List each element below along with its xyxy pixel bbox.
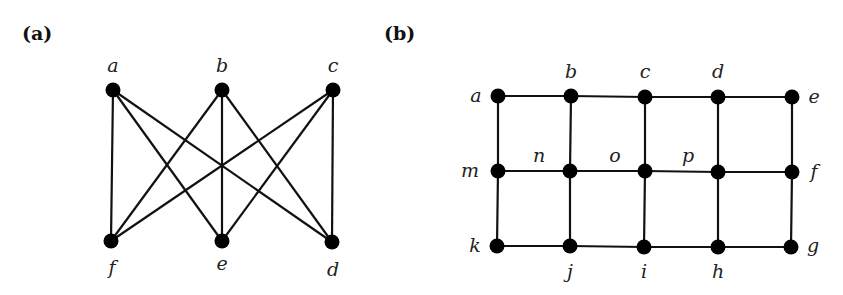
vertex-label-d: d (712, 60, 724, 82)
vertex-label-h: h (712, 260, 724, 282)
edge-c-d (332, 90, 333, 242)
panel-a-graph: (a) abcfed (22, 22, 341, 280)
vertex-b (564, 89, 579, 104)
vertex-label-c: c (328, 54, 339, 76)
vertex-label-f: f (808, 160, 820, 182)
vertex-d (325, 235, 340, 250)
vertex-label-b: b (216, 54, 228, 76)
vertex-nn (563, 164, 578, 179)
edge-b-c (571, 96, 645, 97)
panel-a-edges (111, 90, 333, 242)
vertex-label-d: d (327, 258, 339, 280)
vertex-b (215, 83, 230, 98)
vertex-label-a: a (470, 84, 481, 106)
vertex-c (326, 83, 341, 98)
vertex-d (711, 90, 726, 105)
figure-canvas: (a) abcfed (b) abcdemfkjihgnop (0, 0, 843, 295)
panel-b-label: (b) (384, 22, 415, 44)
vertex-k (490, 239, 505, 254)
vertex-label-o: o (609, 144, 620, 166)
edge-oo-pp (645, 171, 718, 172)
edge-oo-i (644, 171, 645, 247)
edge-a-f (111, 90, 113, 241)
vertex-label-b: b (565, 60, 577, 82)
vertex-e (785, 90, 800, 105)
vertex-f (785, 165, 800, 180)
vertex-i (637, 240, 652, 255)
edge-b-nn (570, 96, 571, 171)
panel-b-graph: (b) abcdemfkjihgnop (384, 22, 820, 282)
vertex-f (104, 234, 119, 249)
panel-a-label: (a) (22, 22, 52, 44)
edge-f-g (791, 172, 792, 247)
vertex-pp (711, 165, 726, 180)
vertex-a (491, 89, 506, 104)
edge-m-k (497, 171, 498, 246)
vertex-m (491, 164, 506, 179)
vertex-e (215, 234, 230, 249)
vertex-label-n: n (533, 144, 545, 166)
vertex-label-j: j (563, 260, 573, 282)
vertex-label-a: a (107, 54, 118, 76)
vertex-oo (638, 164, 653, 179)
vertex-label-f: f (106, 256, 118, 278)
vertex-a (106, 83, 121, 98)
vertex-label-e: e (808, 85, 819, 107)
vertex-label-m: m (461, 159, 479, 181)
vertex-g (784, 240, 799, 255)
vertex-label-p: p (682, 144, 694, 166)
edge-j-i (570, 246, 644, 247)
vertex-j (563, 239, 578, 254)
vertex-c (638, 90, 653, 105)
vertex-h (711, 240, 726, 255)
vertex-label-g: g (807, 234, 819, 256)
vertex-label-i: i (641, 260, 647, 282)
vertex-label-k: k (469, 234, 481, 256)
vertex-label-c: c (640, 60, 651, 82)
vertex-label-e: e (216, 252, 227, 274)
